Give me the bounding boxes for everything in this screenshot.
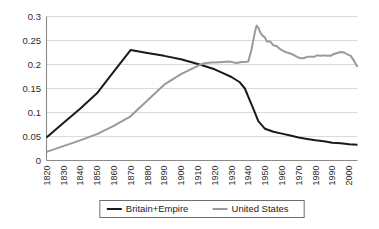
x-tick-label-1980: 1980 (311, 166, 321, 186)
x-tick-label-1950: 1950 (260, 166, 270, 186)
y-tick-label-0.25: 0.25 (23, 35, 42, 46)
x-tick-label-1840: 1840 (75, 166, 85, 186)
legend-label-united-states: United States (232, 203, 289, 214)
x-tick-label-1890: 1890 (159, 166, 169, 186)
x-tick-label-1830: 1830 (59, 166, 69, 186)
x-axis-tick-labels: 1820183018401850186018701880189019001910… (42, 166, 355, 186)
x-tick-label-1900: 1900 (176, 166, 186, 186)
y-tick-label-0.3: 0.3 (28, 11, 41, 22)
x-tick-label-1970: 1970 (294, 166, 304, 186)
x-tick-label-1870: 1870 (126, 166, 136, 186)
chart-legend: Britain+EmpireUnited States (100, 201, 304, 218)
y-tick-label-0.2: 0.2 (28, 59, 41, 70)
x-tick-label-1990: 1990 (327, 166, 337, 186)
x-tick-label-1940: 1940 (243, 166, 253, 186)
x-tick-label-1930: 1930 (227, 166, 237, 186)
y-axis-tick-labels: 00.050.10.150.20.250.3 (23, 11, 42, 166)
x-tick-label-1850: 1850 (92, 166, 102, 186)
y-tick-label-0.1: 0.1 (28, 107, 41, 118)
y-tick-label-0.05: 0.05 (23, 131, 42, 142)
legend-label-britain-empire: Britain+Empire (126, 203, 189, 214)
x-tick-label-1960: 1960 (277, 166, 287, 186)
x-tick-label-2000: 2000 (344, 166, 354, 186)
x-tick-label-1910: 1910 (193, 166, 203, 186)
x-tick-label-1860: 1860 (109, 166, 119, 186)
gridlines-group (47, 17, 358, 137)
y-tick-label-0: 0 (36, 155, 41, 166)
chart-canvas: 00.050.10.150.20.250.3 18201830184018501… (0, 0, 379, 229)
x-tick-label-1820: 1820 (42, 166, 52, 186)
line-chart: 00.050.10.150.20.250.3 18201830184018501… (0, 0, 379, 229)
y-tick-label-0.15: 0.15 (23, 83, 42, 94)
x-tick-label-1880: 1880 (143, 166, 153, 186)
x-tick-label-1920: 1920 (210, 166, 220, 186)
